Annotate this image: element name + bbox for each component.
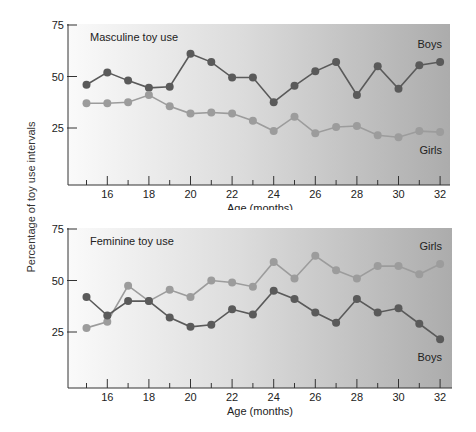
x-tick-label: 26 bbox=[309, 188, 321, 200]
data-point bbox=[270, 258, 278, 266]
y-tick-label: 50 bbox=[52, 275, 64, 287]
data-point bbox=[415, 127, 423, 135]
data-point bbox=[124, 297, 132, 305]
y-tick-label: 25 bbox=[52, 326, 64, 338]
series-label-girls: Girls bbox=[419, 240, 442, 252]
data-point bbox=[124, 282, 132, 290]
data-point bbox=[124, 77, 132, 85]
data-point bbox=[332, 319, 340, 327]
data-point bbox=[436, 335, 444, 343]
x-tick-label: 32 bbox=[434, 188, 446, 200]
data-point bbox=[103, 68, 111, 76]
data-point bbox=[166, 102, 174, 110]
data-point bbox=[124, 98, 132, 106]
y-tick-label: 75 bbox=[52, 19, 64, 31]
data-point bbox=[187, 293, 195, 301]
data-point bbox=[249, 117, 257, 125]
data-point bbox=[332, 266, 340, 274]
data-point bbox=[83, 81, 91, 89]
data-point bbox=[103, 99, 111, 107]
data-point bbox=[291, 113, 299, 121]
x-tick-label: 24 bbox=[268, 391, 280, 403]
series-label-boys: Boys bbox=[418, 38, 443, 50]
data-point bbox=[395, 304, 403, 312]
data-point bbox=[270, 98, 278, 106]
series-label-girls: Girls bbox=[419, 144, 442, 156]
x-tick-label: 20 bbox=[184, 188, 196, 200]
data-point bbox=[311, 129, 319, 137]
data-point bbox=[270, 127, 278, 135]
panel-title: Masculine toy use bbox=[90, 31, 178, 43]
data-point bbox=[415, 320, 423, 328]
data-point bbox=[395, 262, 403, 270]
data-point bbox=[207, 58, 215, 66]
x-tick-label: 30 bbox=[392, 391, 404, 403]
x-axis-label: Age (months) bbox=[227, 405, 293, 417]
data-point bbox=[187, 50, 195, 58]
y-tick-label: 50 bbox=[52, 71, 64, 83]
data-point bbox=[228, 74, 236, 82]
data-point bbox=[145, 297, 153, 305]
x-tick-label: 16 bbox=[101, 188, 113, 200]
data-point bbox=[145, 84, 153, 92]
y-tick-label: 25 bbox=[52, 122, 64, 134]
data-point bbox=[353, 122, 361, 130]
data-point bbox=[166, 286, 174, 294]
data-point bbox=[395, 85, 403, 93]
data-point bbox=[436, 260, 444, 268]
data-point bbox=[415, 61, 423, 69]
data-point bbox=[207, 321, 215, 329]
data-point bbox=[83, 324, 91, 332]
data-point bbox=[291, 82, 299, 90]
data-point bbox=[166, 314, 174, 322]
data-point bbox=[311, 308, 319, 316]
data-point bbox=[436, 128, 444, 136]
data-point bbox=[103, 312, 111, 320]
feminine-toy-use-chart: 255075161820222426283032Age (months)Femi… bbox=[0, 203, 476, 425]
data-point bbox=[207, 109, 215, 117]
x-tick-label: 18 bbox=[143, 391, 155, 403]
data-point bbox=[436, 58, 444, 66]
data-point bbox=[353, 274, 361, 282]
data-point bbox=[145, 91, 153, 99]
panel-title: Feminine toy use bbox=[90, 235, 174, 247]
data-point bbox=[353, 295, 361, 303]
data-point bbox=[291, 274, 299, 282]
plot-area bbox=[68, 228, 452, 388]
x-tick-label: 26 bbox=[309, 391, 321, 403]
x-tick-label: 24 bbox=[268, 188, 280, 200]
data-point bbox=[374, 262, 382, 270]
data-point bbox=[187, 323, 195, 331]
data-point bbox=[228, 305, 236, 313]
data-point bbox=[291, 295, 299, 303]
masculine-toy-use-chart: 255075161820222426283032Age (months)Masc… bbox=[0, 0, 476, 210]
data-point bbox=[187, 110, 195, 118]
x-tick-label: 18 bbox=[143, 188, 155, 200]
series-label-boys: Boys bbox=[418, 351, 443, 363]
data-point bbox=[353, 91, 361, 99]
data-point bbox=[249, 310, 257, 318]
data-point bbox=[249, 74, 257, 82]
x-tick-label: 30 bbox=[392, 188, 404, 200]
data-point bbox=[374, 308, 382, 316]
x-tick-label: 22 bbox=[226, 391, 238, 403]
data-point bbox=[332, 123, 340, 131]
data-point bbox=[83, 293, 91, 301]
data-point bbox=[228, 110, 236, 118]
data-point bbox=[415, 270, 423, 278]
data-point bbox=[270, 287, 278, 295]
data-point bbox=[228, 279, 236, 287]
data-point bbox=[374, 131, 382, 139]
x-tick-label: 16 bbox=[101, 391, 113, 403]
data-point bbox=[311, 252, 319, 260]
figure: Percentage of toy use intervals 25507516… bbox=[0, 0, 476, 432]
data-point bbox=[311, 67, 319, 75]
data-point bbox=[395, 133, 403, 141]
y-tick-label: 75 bbox=[52, 223, 64, 235]
x-tick-label: 32 bbox=[434, 391, 446, 403]
x-tick-label: 20 bbox=[184, 391, 196, 403]
x-tick-label: 28 bbox=[351, 188, 363, 200]
data-point bbox=[207, 277, 215, 285]
data-point bbox=[166, 83, 174, 91]
x-tick-label: 28 bbox=[351, 391, 363, 403]
